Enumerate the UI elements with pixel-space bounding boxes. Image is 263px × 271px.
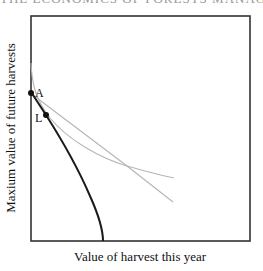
y-axis-label: Maxium value of future harvests	[3, 43, 19, 213]
point-l-label: L	[35, 111, 42, 125]
price-line	[33, 95, 173, 202]
x-axis-label: Value of harvest this year	[74, 249, 206, 265]
plot-frame	[31, 16, 250, 241]
diagram-plot: A L	[0, 0, 263, 271]
point-l-marker	[43, 112, 49, 118]
point-a-label: A	[35, 86, 44, 100]
indifference-curve	[31, 63, 174, 178]
point-a-marker	[28, 90, 34, 96]
